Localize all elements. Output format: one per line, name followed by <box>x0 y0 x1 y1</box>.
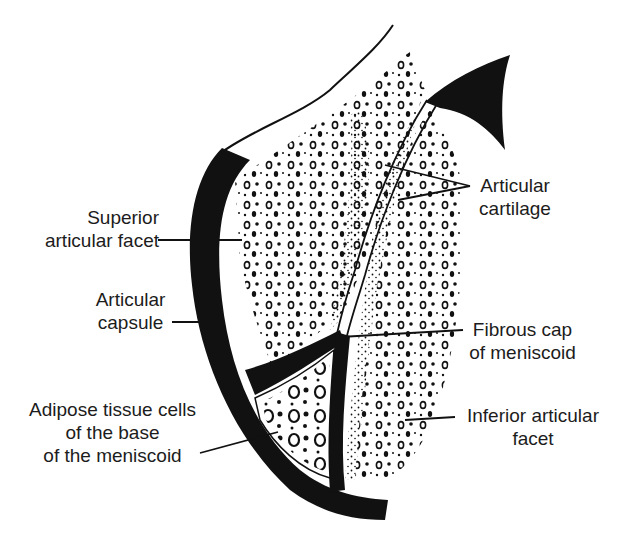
label-line: capsule <box>88 311 173 334</box>
label-line: articular facet <box>14 229 159 252</box>
label-superior-articular-facet: Superior articular facet <box>14 206 159 252</box>
label-line: Fibrous cap <box>465 318 580 341</box>
label-line: Adipose tissue cells <box>20 398 205 421</box>
label-adipose-tissue-cells: Adipose tissue cells of the base of the … <box>20 398 205 467</box>
label-line: Articular <box>88 288 173 311</box>
label-line: of the meniscoid <box>20 444 205 467</box>
label-line: cartilage <box>470 197 560 220</box>
label-line: Articular <box>470 174 560 197</box>
label-line: of meniscoid <box>465 341 580 364</box>
label-fibrous-cap: Fibrous cap of meniscoid <box>465 318 580 364</box>
label-line: of the base <box>20 421 205 444</box>
label-articular-cartilage: Articular cartilage <box>470 174 560 220</box>
label-line: Inferior articular <box>458 404 608 427</box>
label-articular-capsule: Articular capsule <box>88 288 173 334</box>
label-line: facet <box>458 427 608 450</box>
label-line: Superior <box>14 206 159 229</box>
label-inferior-articular-facet: Inferior articular facet <box>458 404 608 450</box>
